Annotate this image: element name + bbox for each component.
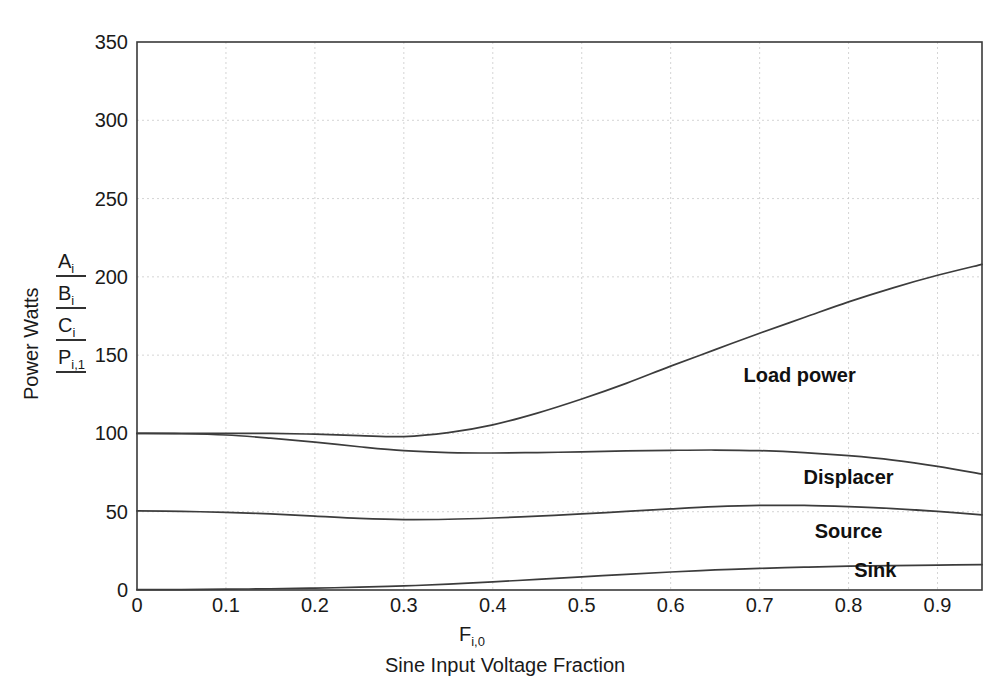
y-axis-title: Power Watts [20,287,42,400]
y-tick-label: 150 [95,344,128,366]
x-tick-label: 0.9 [924,594,952,616]
x-tick-label: 0 [131,594,142,616]
y-tick-label: 100 [95,422,128,444]
y-tick-label: 0 [117,579,128,601]
x-tick-label: 0.4 [479,594,507,616]
series-label-sink: Sink [854,559,897,581]
power-watts-line-chart: 00.10.20.30.40.50.60.70.80.9 05010015020… [0,0,1007,682]
y-tick-label: 250 [95,188,128,210]
series-label-load-power: Load power [744,364,856,386]
x-tick-label: 0.2 [301,594,329,616]
x-tick-label: 0.6 [657,594,685,616]
y-tick-label: 300 [95,109,128,131]
series-label-source: Source [815,520,883,542]
x-tick-label: 0.3 [390,594,418,616]
x-axis-title: Sine Input Voltage Fraction [385,654,625,676]
y-tick-label: 50 [106,501,128,523]
x-tick-label: 0.1 [212,594,240,616]
x-tick-label: 0.5 [568,594,596,616]
y-tick-label: 350 [95,31,128,53]
y-tick-label: 200 [95,266,128,288]
x-tick-label: 0.8 [835,594,863,616]
x-tick-label: 0.7 [746,594,774,616]
series-label-displacer: Displacer [804,466,894,488]
chart-page: 00.10.20.30.40.50.60.70.80.9 05010015020… [0,0,1007,682]
